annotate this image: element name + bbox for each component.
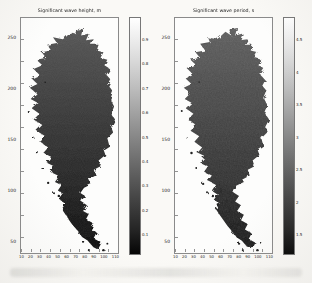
colorbar-tick-label: 0.7 (142, 86, 148, 91)
scanned-figure: Significant wave height, m 2502001501005… (0, 0, 312, 283)
x-tick-label: 80 (236, 254, 241, 259)
x-tick-label: 30 (191, 254, 196, 259)
x-tick-label: 30 (37, 254, 42, 259)
y-axis-tick-labels: 25020015010050 (2, 17, 18, 252)
x-axis-ticks (175, 249, 272, 252)
panel-title: Significant wave height, m (22, 7, 116, 13)
x-tick-label: 60 (218, 254, 223, 259)
x-tick-label: 40 (46, 254, 51, 259)
x-tick-label: 20 (28, 254, 33, 259)
x-tick-label: 50 (55, 254, 60, 259)
lake-map (21, 28, 118, 252)
colorbar-tick-label: 0.2 (142, 208, 148, 213)
scan-artifact-smudge (10, 268, 302, 277)
colorbar-tick-label: 3 (296, 135, 299, 140)
x-tick-label: 60 (64, 254, 69, 259)
x-axis-tick-labels: 102030405060708090100110 (173, 254, 273, 259)
x-tick-label: 10 (19, 254, 24, 259)
colorbar-tick-label: 2.5 (296, 167, 302, 172)
colorbar-tick-label: 0.4 (142, 159, 148, 164)
x-tick-label: 80 (82, 254, 87, 259)
colorbar-tick-label: 2 (296, 200, 299, 205)
y-tick-label: 50 (164, 239, 170, 244)
y-tick-label: 50 (10, 239, 16, 244)
x-tick-label: 70 (227, 254, 232, 259)
panel-title: Significant wave period, s (176, 7, 270, 13)
plot-frame (174, 17, 273, 254)
panel-wave-height: Significant wave height, m 2502001501005… (0, 0, 156, 283)
x-tick-label: 110 (112, 254, 119, 259)
x-tick-label: 70 (73, 254, 78, 259)
colorbar-tick-label: 0.3 (142, 183, 148, 188)
colorbar-tick-label: 0.6 (142, 110, 148, 115)
y-tick-label: 150 (161, 137, 170, 142)
colorbar (283, 17, 295, 255)
y-axis-tick-labels: 25020015010050 (156, 17, 172, 252)
x-tick-label: 100 (254, 254, 261, 259)
colorbar-tick-label: 4 (296, 70, 299, 75)
y-tick-label: 150 (7, 137, 16, 142)
colorbar (129, 17, 141, 255)
plot-frame (20, 17, 119, 254)
x-tick-label: 90 (91, 254, 96, 259)
y-tick-label: 100 (7, 188, 16, 193)
colorbar-tick-label: 0.1 (142, 232, 148, 237)
y-axis-ticks (21, 18, 24, 251)
x-tick-label: 50 (209, 254, 214, 259)
x-tick-label: 110 (266, 254, 273, 259)
y-axis-ticks (175, 18, 178, 251)
y-tick-label: 200 (161, 86, 170, 91)
colorbar-tick-label: 0.8 (142, 61, 148, 66)
y-tick-label: 200 (7, 86, 16, 91)
colorbar-tick-label: 4.5 (296, 37, 302, 42)
x-axis-ticks (21, 249, 118, 252)
x-axis-tick-labels: 102030405060708090100110 (19, 254, 119, 259)
x-tick-label: 100 (100, 254, 107, 259)
y-tick-label: 250 (7, 35, 16, 40)
panel-wave-period: Significant wave period, s 2502001501005… (154, 0, 310, 283)
y-tick-label: 250 (161, 35, 170, 40)
colorbar-tick-label: 1.5 (296, 232, 302, 237)
colorbar-tick-label: 0.5 (142, 135, 148, 140)
lake-map (175, 28, 272, 252)
colorbar-tick-label: 0.9 (142, 37, 148, 42)
colorbar-tick-label: 3.5 (296, 102, 302, 107)
x-tick-label: 10 (173, 254, 178, 259)
x-tick-label: 90 (245, 254, 250, 259)
colorbar-tick-labels: 4.543.532.521.5 (296, 17, 309, 253)
x-tick-label: 20 (182, 254, 187, 259)
x-tick-label: 40 (200, 254, 205, 259)
y-tick-label: 100 (161, 188, 170, 193)
